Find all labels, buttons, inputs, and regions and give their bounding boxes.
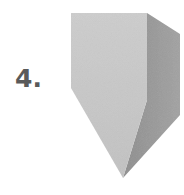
prism-shape-illustration <box>0 0 184 195</box>
